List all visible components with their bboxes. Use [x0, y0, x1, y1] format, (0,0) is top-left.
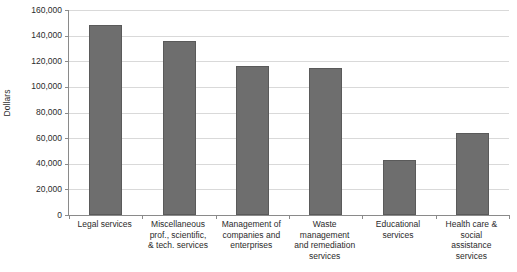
x-axis-category-labels: Legal servicesMiscellaneousprof., scient…: [68, 219, 508, 272]
y-axis-tick-label: 140,000: [0, 31, 62, 40]
x-axis-category-label-line: Waste: [288, 219, 361, 230]
x-axis-category-label-line: services: [435, 251, 508, 262]
x-axis-category-label-line: management: [288, 230, 361, 241]
x-axis-category-label-line: Health care &: [435, 219, 508, 230]
y-axis-tick-mark: [65, 87, 69, 88]
bar: [309, 68, 342, 215]
x-axis-category-label-line: and remediation: [288, 240, 361, 251]
y-axis-tick-label: 120,000: [0, 57, 62, 66]
y-axis-tick-label: 160,000: [0, 6, 62, 15]
y-axis-tick-mark: [65, 189, 69, 190]
x-axis-category-label: Health care &socialassistanceservices: [435, 219, 508, 261]
y-axis-tick-mark: [65, 36, 69, 37]
x-axis-category-label: Wastemanagementand remediationservices: [288, 219, 361, 261]
x-axis-category-label-line: & tech. services: [141, 240, 214, 251]
y-axis-tick-mark: [65, 10, 69, 11]
y-axis-tick-label: 80,000: [0, 108, 62, 117]
x-axis-category-label: Legal services: [68, 219, 141, 230]
x-axis-category-label-line: assistance: [435, 240, 508, 251]
x-axis-category-label-line: enterprises: [215, 240, 288, 251]
bar: [163, 41, 196, 215]
plot-area: [68, 10, 509, 216]
y-axis-tick-mark: [65, 113, 69, 114]
y-axis-tick-labels: 160,000140,000120,000100,00080,00060,000…: [0, 0, 62, 225]
x-axis-category-label: Educationalservices: [361, 219, 434, 240]
bar: [383, 160, 416, 215]
bar-chart: Dollars 160,000140,000120,000100,00080,0…: [0, 0, 517, 272]
y-axis-tick-label: 20,000: [0, 185, 62, 194]
y-axis-tick-mark: [65, 61, 69, 62]
y-axis-tick-mark: [65, 138, 69, 139]
y-axis-tick-label: 60,000: [0, 134, 62, 143]
y-axis-tick-mark: [65, 164, 69, 165]
x-axis-category-label-line: companies and: [215, 230, 288, 241]
x-axis-category-label-line: Management of: [215, 219, 288, 230]
bar: [89, 25, 122, 215]
x-axis-category-label-line: social: [435, 230, 508, 241]
bar: [456, 133, 489, 215]
y-axis-tick-label: 100,000: [0, 82, 62, 91]
x-axis-category-label-line: services: [288, 251, 361, 262]
x-axis-category-label: Management ofcompanies andenterprises: [215, 219, 288, 251]
y-axis-tick-label: 0: [0, 211, 62, 220]
bar-series: [69, 10, 509, 215]
x-axis-category-label: Miscellaneousprof., scientific,& tech. s…: [141, 219, 214, 251]
x-axis-category-label-line: prof., scientific,: [141, 230, 214, 241]
x-axis-category-label-line: Miscellaneous: [141, 219, 214, 230]
x-axis-category-label-line: Legal services: [68, 219, 141, 230]
x-axis-tick-mark: [509, 215, 510, 219]
y-axis-tick-label: 40,000: [0, 159, 62, 168]
x-axis-category-label-line: services: [361, 230, 434, 241]
bar: [236, 66, 269, 215]
x-axis-category-label-line: Educational: [361, 219, 434, 230]
